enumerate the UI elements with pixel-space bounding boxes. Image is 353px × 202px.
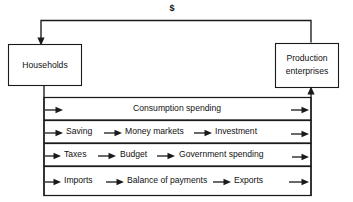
saving-label: Saving [66, 126, 92, 136]
flow-row-taxes-government: Taxes Budget Government spending [44, 144, 311, 167]
economic-flow-diagram: $ Households Production enterprises Con [0, 0, 353, 202]
exports-label: Exports [234, 175, 263, 185]
flow-row-imports-exports: Imports Balance of payments Exports [44, 167, 311, 196]
investment-label: Investment [215, 126, 258, 136]
taxes-label: Taxes [64, 149, 86, 159]
imports-arrow-2-icon [106, 179, 124, 185]
node-production-enterprises: Production enterprises [276, 44, 339, 88]
imports-arrow-4-icon [289, 179, 309, 185]
taxes-arrow-3-icon [157, 153, 175, 159]
consumption-spending-label: Consumption spending [133, 103, 221, 113]
currency-marker-label: $ [169, 3, 174, 13]
households-label: Households [22, 60, 67, 70]
imports-label: Imports [64, 175, 93, 185]
taxes-arrow-1-icon [45, 153, 61, 159]
imports-arrow-1-icon [45, 179, 61, 185]
balance-of-payments-label: Balance of payments [127, 175, 207, 185]
currency-return-path [37, 21, 311, 46]
saving-arrow-4-icon [291, 131, 309, 137]
node-households: Households [9, 45, 82, 86]
money-markets-label: Money markets [125, 126, 184, 136]
saving-arrow-3-icon [194, 130, 212, 136]
flow-row-saving-investment: Saving Money markets Investment [44, 121, 311, 144]
currency-return-line [41, 21, 311, 43]
production-enterprises-label-line1: Production [286, 53, 327, 63]
production-enterprises-label-line2: enterprises [286, 66, 329, 76]
saving-arrow-2-icon [104, 130, 122, 136]
budget-label: Budget [120, 149, 148, 159]
taxes-arrow-2-icon [98, 153, 116, 159]
saving-arrow-1-icon [45, 130, 63, 136]
imports-arrow-3-icon [213, 179, 231, 185]
consumption-arrow-left-icon [45, 107, 63, 113]
flow-row-consumption: Consumption spending [44, 98, 311, 121]
government-spending-label: Government spending [179, 149, 264, 159]
consumption-arrow-right-icon [291, 107, 309, 113]
taxes-arrow-4-icon [292, 154, 309, 160]
flow-diagram-canvas: $ Households Production enterprises Con [0, 0, 353, 202]
